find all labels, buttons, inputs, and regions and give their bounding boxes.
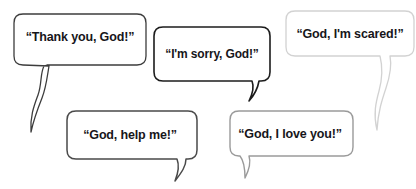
speech-bubble-god-i-love-you: “God, I love you!” xyxy=(0,0,416,189)
speech-bubble-scene: “Thank you, God!” “I'm sorry, God!” “God… xyxy=(0,0,416,189)
bubble-label-god-i-love-you: “God, I love you!” xyxy=(230,112,350,156)
